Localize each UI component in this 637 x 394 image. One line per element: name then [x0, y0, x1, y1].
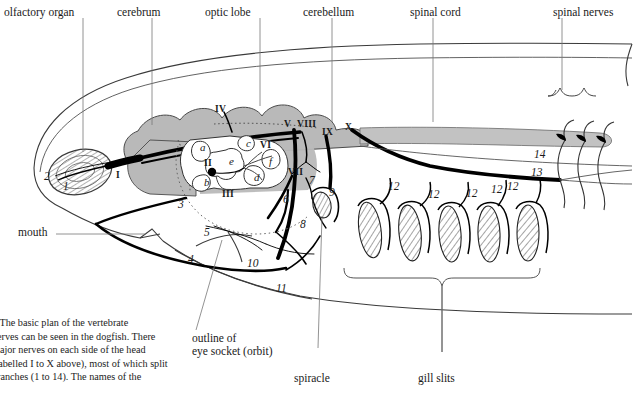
cranial-nerve-I: I — [116, 170, 120, 180]
label-spiracle: spiracle — [294, 372, 330, 384]
branch-number-11: 11 — [276, 282, 287, 294]
cranial-nerve-X: X — [345, 122, 352, 132]
label-olfactory-organ: olfactory organ — [4, 6, 74, 18]
branch-number-3: 3 — [178, 198, 184, 210]
orbit-letter-c: c — [246, 137, 251, 149]
branch-number-2: 2 — [44, 170, 50, 182]
spinal-cord-shape — [360, 127, 612, 147]
cranial-nerve-IV: IV — [215, 104, 226, 114]
label-cerebrum: cerebrum — [117, 6, 160, 18]
branch-number-12b: 12 — [428, 188, 440, 200]
branch-number-14: 14 — [534, 148, 546, 160]
label-gill-slits: gill slits — [418, 372, 455, 384]
branch-number-13: 13 — [531, 166, 543, 178]
gill-slits-shapes — [355, 178, 548, 263]
branch-number-10: 10 — [247, 257, 259, 269]
orbit-letter-d: d — [254, 171, 260, 183]
orbit-letter-a: a — [200, 141, 206, 153]
cranial-nerve-VIII: VIII — [297, 119, 316, 129]
branch-number-12c: 12 — [466, 187, 478, 199]
branch-number-12a: 12 — [388, 180, 400, 192]
orbit-letter-f: f — [269, 155, 272, 167]
caption-line-4: (labelled I to X above), most of which s… — [0, 357, 188, 371]
branch-number-5: 5 — [204, 226, 210, 238]
cranial-nerve-VI: VI — [260, 140, 271, 150]
label-spinal-cord: spinal cord — [410, 6, 461, 18]
label-mouth: mouth — [18, 226, 47, 238]
branch-number-9: 9 — [329, 186, 335, 198]
optic-nerve-dot — [208, 168, 216, 176]
cranial-nerve-V: V — [284, 119, 291, 129]
caption-line-3: major nerves on each side of the head — [0, 343, 188, 357]
orbit-letter-e: e — [229, 155, 234, 167]
figure-caption: 4 The basic plan of the vertebrate nerve… — [0, 316, 188, 384]
caption-line-2: nerves can be seen in the dogfish. There — [0, 330, 188, 344]
label-optic-lobe: optic lobe — [205, 6, 251, 18]
cranial-nerve-IX: IX — [322, 127, 333, 137]
lateral-line-nerves — [360, 146, 632, 184]
spinal-nerves-shapes — [548, 88, 614, 210]
cranial-nerve-VII: VII — [288, 167, 303, 177]
branch-number-6: 6 — [283, 193, 289, 205]
label-orbit-line2: eye socket (orbit) — [192, 345, 272, 357]
branch-number-1: 1 — [63, 180, 69, 192]
branch-number-12e: 12 — [507, 180, 519, 192]
branch-number-7: 7 — [309, 174, 315, 186]
branch-number-12d: 12 — [491, 183, 503, 195]
branch-number-8: 8 — [300, 218, 306, 230]
orbit-letter-b: b — [204, 176, 210, 188]
caption-line-5: branches (1 to 14). The names of the — [0, 370, 188, 384]
cranial-nerve-II: II — [204, 158, 212, 168]
label-spinal-nerves: spinal nerves — [553, 6, 613, 18]
caption-line-1: 4 The basic plan of the vertebrate — [0, 316, 188, 330]
label-cerebellum: cerebellum — [303, 6, 354, 18]
branch-number-4: 4 — [188, 253, 194, 265]
label-orbit-line1: outline of — [192, 332, 236, 344]
figure-canvas: olfactory organ cerebrum optic lobe cere… — [0, 0, 637, 394]
cranial-nerve-III: III — [222, 189, 234, 199]
